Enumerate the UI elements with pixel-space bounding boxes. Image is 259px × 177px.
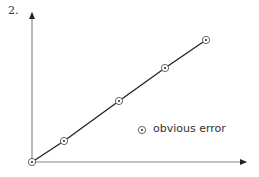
circled-dot-marker-icon xyxy=(138,126,145,133)
figure-number: 2. xyxy=(8,4,19,17)
legend-label: obvious error xyxy=(153,122,226,135)
diagram-canvas xyxy=(0,0,259,177)
